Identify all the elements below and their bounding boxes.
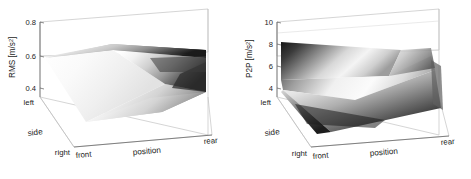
figure-canvas: 0.8 0.6 0.4 RMS [m/s2] left right side f…	[0, 0, 471, 179]
rms-plot-svg: 0.8 0.6 0.4 RMS [m/s2] left right side f…	[0, 0, 236, 179]
p2p-xtick-rear: rear	[440, 137, 455, 147]
p2p-zaxis-title-close: ]	[245, 40, 254, 42]
p2p-ztick-0: 10	[265, 18, 273, 27]
p2p-ztick-1: 8	[269, 40, 273, 49]
p2p-ytick-left: left	[261, 98, 272, 107]
rms-surface-mesh	[45, 44, 206, 122]
p2p-surface-mesh	[281, 42, 443, 134]
rms-zaxis-title: RMS [m/s2]	[8, 37, 17, 78]
rms-xaxis-title: position	[132, 146, 161, 157]
rms-z-axis	[40, 22, 44, 97]
rms-ztick-2: 0.4	[25, 84, 36, 93]
p2p-yaxis-title: side	[264, 127, 280, 138]
rms-ztick-0: 0.8	[25, 18, 36, 27]
p2p-zaxis-title: P2P [m/s2]	[245, 40, 254, 78]
p2p-ytick-right: right	[292, 149, 308, 158]
rms-zaxis-title-base: RMS [m/s	[8, 42, 17, 78]
p2p-plot-svg: 10 8 6 4 P2P [m/s2] left right side fron…	[235, 0, 471, 179]
p2p-ztick-2: 6	[269, 62, 273, 71]
rms-yaxis-title: side	[27, 127, 43, 138]
surface-plot-rms: 0.8 0.6 0.4 RMS [m/s2] left right side f…	[0, 0, 236, 179]
p2p-z-axis	[277, 22, 281, 97]
p2p-xtick-front: front	[312, 151, 329, 161]
p2p-xaxis-title: position	[369, 147, 398, 158]
p2p-zaxis-title-base: P2P [m/s	[245, 45, 254, 78]
p2p-ztick-3: 4	[269, 84, 273, 93]
rms-zaxis-title-close: ]	[8, 37, 17, 39]
surface-plot-p2p: 10 8 6 4 P2P [m/s2] left right side fron…	[235, 0, 471, 179]
rms-xtick-rear: rear	[203, 136, 218, 146]
rms-ztick-1: 0.6	[25, 52, 36, 61]
svg-text:RMS [m/s2]: RMS [m/s2]	[8, 37, 17, 78]
svg-text:P2P [m/s2]: P2P [m/s2]	[245, 40, 254, 78]
rms-ytick-left: left	[24, 98, 35, 107]
rms-xtick-front: front	[75, 150, 92, 160]
rms-ytick-right: right	[55, 148, 71, 157]
